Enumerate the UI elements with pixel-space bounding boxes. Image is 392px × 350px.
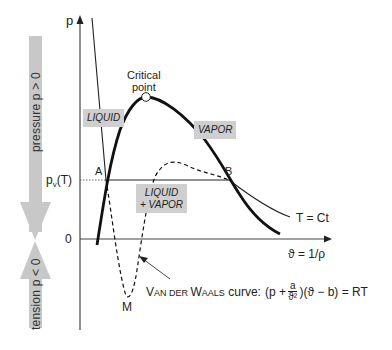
pv-label: pv(T) [46,174,72,189]
point-m-label: M [122,301,132,313]
liquid-region-label: LIQUID [83,109,124,127]
vdw-title: VAN DER WAALS curve: [146,286,261,298]
pressure-label: pressure p > 0 [29,72,43,152]
critical-point-marker [142,93,151,102]
point-b-label: B [225,166,232,177]
x-axis-label: ϑ = 1/ρ [288,248,325,260]
vdw-fraction: a ϑ² [288,281,298,302]
y-axis-label: p [66,14,73,27]
vdw-pointer-line [143,259,170,279]
zero-label: 0 [65,233,72,245]
vapor-region-label: VAPOR [194,121,236,139]
binodal-curve [97,97,280,245]
x-axis-arrowhead [324,236,332,243]
y-axis-arrowhead [77,15,84,24]
point-a-label: A [95,166,102,177]
isotherm-label: T = Ct [296,212,329,224]
critical-point-label: Critical point [127,69,161,93]
liquid-vapor-region-label: LIQUID + VAPOR [136,184,187,213]
tension-label: tension p < 0 [29,258,43,330]
vdw-equation: VAN DER WAALS curve: (p + a ϑ² )(ϑ − b) … [146,281,368,302]
